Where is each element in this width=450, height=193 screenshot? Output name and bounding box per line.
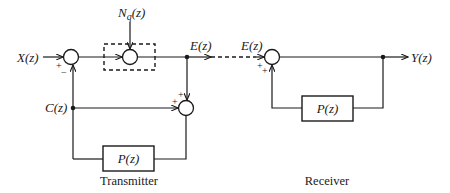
summing-junction-3 xyxy=(179,101,194,116)
feedback-label: C(z) xyxy=(45,100,67,115)
rx-node-to-filter-line xyxy=(353,57,383,108)
rx-plus-b: + xyxy=(262,65,268,76)
output-label: Y(z) xyxy=(411,50,432,65)
summing-junction-1 xyxy=(64,50,79,65)
rx-filter-to-sum-arrow xyxy=(272,65,302,108)
sum3-to-filter-line xyxy=(154,116,186,160)
tx-filter-label: P(z) xyxy=(117,151,140,166)
error-label-rx: E(z) xyxy=(240,38,263,53)
block-diagram: X(z) + − Nq(z) E(z) + + C(z) P(z) Transm… xyxy=(0,0,450,193)
noise-label: Nq(z) xyxy=(117,5,145,22)
sum3-plus-top: + xyxy=(178,89,184,100)
quantizer-summing-junction xyxy=(123,50,138,65)
sum3-plus-left: + xyxy=(172,96,178,107)
error-label-tx: E(z) xyxy=(189,38,212,53)
receiver-caption: Receiver xyxy=(305,174,350,188)
input-label: X(z) xyxy=(16,50,39,65)
rx-filter-label: P(z) xyxy=(316,101,339,116)
rx-summing-junction xyxy=(265,50,280,65)
sum1-minus-sign: − xyxy=(61,67,67,78)
transmitter-caption: Transmitter xyxy=(100,174,159,188)
